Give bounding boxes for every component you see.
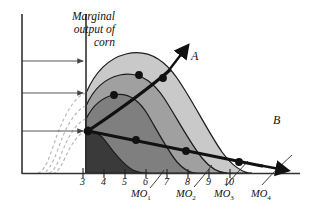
dashed-lead-in-curves xyxy=(38,93,86,173)
curve-label-mo1-sub: 1 xyxy=(147,194,151,202)
x-tick-4: 4 xyxy=(101,176,106,187)
curve-label-mo3: MO3 xyxy=(214,188,234,202)
level-arrows xyxy=(22,61,83,131)
chart-svg xyxy=(0,0,310,209)
x-tick-3: 3 xyxy=(80,176,85,187)
curve-label-mo4-text: MO xyxy=(251,188,267,199)
figure-canvas: Marginal output of corn A B 3 4 5 6 7 8 … xyxy=(0,0,310,209)
curve-label-mo2-sub: 2 xyxy=(192,194,196,202)
ray-a-arrow xyxy=(166,48,186,74)
curve-label-mo1: MO1 xyxy=(131,188,151,202)
x-tick-10: 10 xyxy=(224,176,234,187)
x-tick-7: 7 xyxy=(164,176,169,187)
y-axis-title-line-2: output of xyxy=(72,23,115,36)
curve-label-mo3-sub: 3 xyxy=(230,194,234,202)
curve-label-mo2-text: MO xyxy=(176,188,192,199)
curve-label-mo2: MO2 xyxy=(176,188,196,202)
curve-label-mo4-sub: 4 xyxy=(267,194,271,202)
x-tick-9: 9 xyxy=(206,176,211,187)
x-tick-5: 5 xyxy=(122,176,127,187)
curve-label-mo4: MO4 xyxy=(251,188,271,202)
ray-a-label: A xyxy=(191,50,198,63)
y-axis-title-line-1: Marginal xyxy=(72,10,115,23)
curve-label-mo1-text: MO xyxy=(131,188,147,199)
ray-b-label: B xyxy=(273,114,280,127)
x-tick-8: 8 xyxy=(185,176,190,187)
curve-label-mo3-text: MO xyxy=(214,188,230,199)
y-axis-title: Marginal output of corn xyxy=(72,10,115,49)
x-tick-6: 6 xyxy=(143,176,148,187)
y-axis-title-line-3: corn xyxy=(72,36,115,49)
